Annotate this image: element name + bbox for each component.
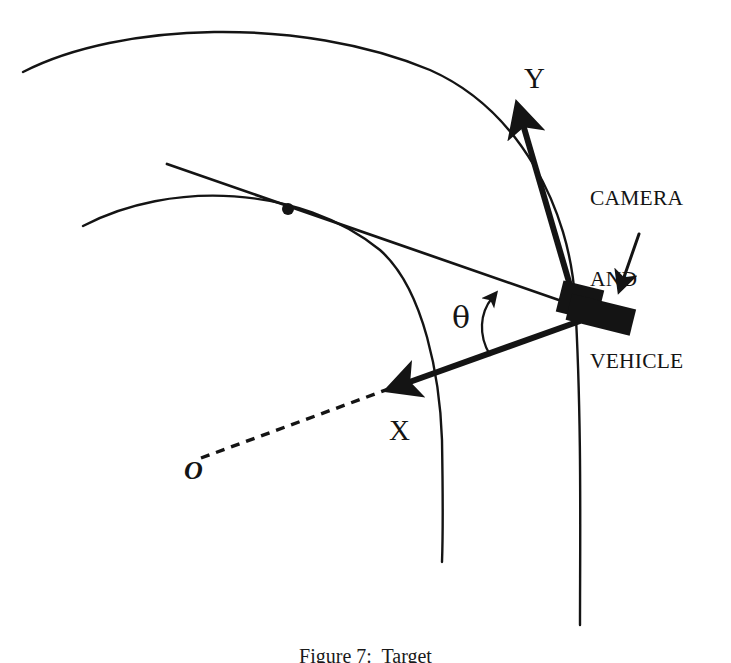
callout-line-2: AND [590, 266, 683, 293]
callout-line-3: VEHICLE [590, 348, 683, 375]
camera-vehicle-callout-label: CAMERA AND VEHICLE [590, 130, 683, 430]
y-axis-arrow [522, 121, 576, 306]
theta-angle-label: θ [452, 301, 470, 336]
outer-arc [23, 32, 580, 625]
angle-arc [482, 298, 492, 355]
y-axis-label: Y [524, 62, 545, 96]
inner-arc [83, 196, 443, 562]
origin-label: O [184, 456, 203, 486]
line-of-sight [167, 164, 576, 306]
x-axis-label: X [389, 414, 410, 448]
target-point-dot [282, 203, 294, 215]
origin-ray-dashed [201, 387, 394, 458]
callout-line-1: CAMERA [590, 185, 683, 212]
figure-container: Y X θ O CAMERA AND VEHICLE Figure 7: Tar… [0, 0, 731, 663]
figure-caption: Figure 7: Target [0, 645, 731, 663]
